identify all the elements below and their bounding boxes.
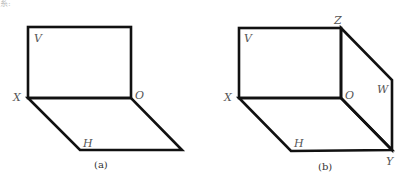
label-h: H: [82, 137, 93, 150]
h-plane: [239, 98, 392, 151]
h-plane: [28, 98, 182, 150]
label-h: H: [293, 137, 304, 150]
label-w: W: [377, 83, 390, 96]
label-z: Z: [333, 14, 342, 27]
label-y: Y: [386, 155, 395, 168]
label-o: O: [135, 89, 144, 102]
figure-b: V X O H Z W Y (b): [223, 14, 395, 172]
label-v: V: [244, 32, 253, 45]
figure-a: V X O H (a): [12, 27, 182, 170]
label-o: O: [345, 89, 354, 102]
label-x: X: [12, 91, 22, 104]
caption-b: (b): [318, 161, 332, 172]
v-plane: [239, 28, 341, 98]
projection-planes-diagram: 系: V X O H (a) V X O H Z W Y (b): [0, 0, 404, 185]
label-v: V: [34, 32, 43, 45]
stray-text: 系:: [0, 0, 11, 8]
label-x: X: [223, 91, 233, 104]
v-plane: [28, 27, 131, 98]
caption-a: (a): [94, 159, 108, 170]
